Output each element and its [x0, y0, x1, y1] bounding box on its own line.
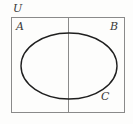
- label-set-a: A: [16, 21, 24, 32]
- label-set-c: C: [101, 91, 109, 102]
- label-universal-set: U: [13, 3, 22, 14]
- set-diagram-figure: U A B C: [0, 0, 133, 124]
- label-set-b: B: [110, 21, 118, 32]
- set-diagram-canvas: [0, 0, 133, 124]
